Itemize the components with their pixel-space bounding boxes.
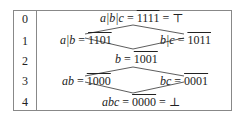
node-top: a|b|c = 1111 = ⊤ [100, 11, 183, 25]
node-a-or-b: a|b = 1101 [60, 33, 112, 47]
node-bc: bc = 0001 [160, 74, 208, 88]
node-b: b = 1001 [115, 52, 158, 66]
node-ab: ab = 1000 [62, 74, 111, 88]
node-b-or-c: b|c = 1011 [160, 33, 211, 47]
node-bottom: abc = 0000 = ⊥ [102, 95, 180, 109]
